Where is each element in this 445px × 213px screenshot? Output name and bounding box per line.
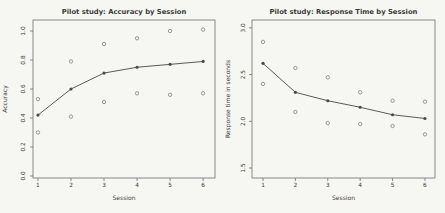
y-tick-label: 0.0	[20, 171, 26, 181]
mean-point	[36, 113, 39, 116]
mean-line	[263, 63, 425, 118]
data-point-open	[135, 92, 138, 95]
scatter-points	[261, 40, 426, 136]
x-tick-label: 3	[102, 182, 106, 188]
y-tick-label: 0.2	[20, 142, 26, 152]
data-point-open	[201, 92, 204, 95]
mean-point	[359, 106, 362, 109]
data-point-open	[391, 99, 394, 102]
x-tick-label: 4	[358, 182, 362, 188]
y-axis-title: Accuracy	[1, 85, 9, 113]
y-tick-label: 0.6	[20, 84, 26, 94]
data-point-open	[69, 115, 72, 118]
figure: Pilot study: Accuracy by Session123456Se…	[0, 0, 445, 213]
data-point-open	[168, 93, 171, 96]
x-tick-label: 6	[423, 182, 427, 188]
x-axis-title: Session	[332, 194, 355, 201]
data-point-open	[168, 29, 171, 32]
y-tick-label: 2.0	[240, 116, 246, 126]
x-tick-label: 6	[201, 182, 205, 188]
scatter-points	[36, 28, 205, 134]
data-point-open	[135, 37, 138, 40]
mean-point	[294, 91, 297, 94]
data-point-open	[102, 42, 105, 45]
x-axis-title: Session	[113, 194, 136, 201]
y-axis-title: Response time in seconds	[224, 60, 232, 138]
data-point-open	[326, 121, 329, 124]
y-tick-label: 1.5	[240, 163, 246, 173]
mean-line	[38, 61, 203, 115]
chart-title: Pilot study: Response Time by Session	[270, 8, 418, 16]
data-point-open	[36, 131, 39, 134]
accuracy-chart: Pilot study: Accuracy by Session123456Se…	[0, 0, 222, 213]
x-tick-label: 2	[294, 182, 298, 188]
y-axis: 1.52.02.53.0Response time in seconds	[224, 23, 252, 173]
mean-series	[36, 60, 204, 117]
response-time-chart: Pilot study: Response Time by Session123…	[222, 0, 445, 213]
y-tick-label: 0.4	[20, 113, 26, 123]
plot-box	[252, 20, 435, 178]
chart-title: Pilot study: Accuracy by Session	[62, 8, 187, 16]
data-point-open	[102, 100, 105, 103]
x-axis: 123456Session	[261, 178, 427, 201]
y-tick-label: 1.0	[20, 26, 26, 36]
data-point-open	[261, 82, 264, 85]
x-tick-label: 4	[135, 182, 139, 188]
mean-point	[391, 113, 394, 116]
x-tick-label: 3	[326, 182, 330, 188]
mean-point	[168, 63, 171, 66]
x-tick-label: 5	[391, 182, 395, 188]
x-tick-label: 1	[36, 182, 40, 188]
data-point-open	[294, 110, 297, 113]
y-axis: 0.00.20.40.60.81.0Accuracy	[1, 26, 33, 180]
data-point-open	[423, 100, 426, 103]
mean-point	[202, 60, 205, 63]
mean-point	[135, 66, 138, 69]
y-tick-label: 0.8	[20, 55, 26, 65]
mean-series	[261, 62, 426, 120]
mean-point	[261, 62, 264, 65]
y-tick-label: 2.5	[240, 70, 246, 80]
y-tick-label: 3.0	[240, 23, 246, 33]
data-point-open	[423, 133, 426, 136]
data-point-open	[358, 122, 361, 125]
mean-point	[69, 87, 72, 90]
mean-point	[423, 117, 426, 120]
x-tick-label: 1	[261, 182, 265, 188]
mean-point	[326, 99, 329, 102]
plot-box	[33, 20, 215, 178]
x-axis: 123456Session	[36, 178, 205, 201]
data-point-open	[294, 66, 297, 69]
mean-point	[102, 71, 105, 74]
data-point-open	[326, 76, 329, 79]
x-tick-label: 2	[69, 182, 73, 188]
data-point-open	[391, 124, 394, 127]
data-point-open	[36, 97, 39, 100]
x-tick-label: 5	[168, 182, 172, 188]
data-point-open	[261, 40, 264, 43]
data-point-open	[69, 60, 72, 63]
data-point-open	[358, 91, 361, 94]
data-point-open	[201, 28, 204, 31]
